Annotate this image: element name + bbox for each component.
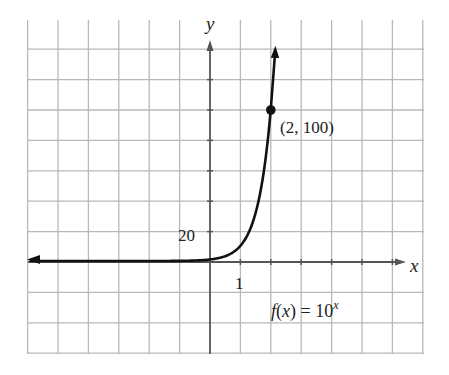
function-label-x: x (281, 301, 290, 321)
function-label-exponent: x (332, 298, 339, 312)
point-annotation-label: (2, 100) (280, 118, 334, 137)
grid-lines (28, 20, 424, 354)
y-axis-arrow-icon (207, 40, 214, 51)
curve-top-arrow-icon (271, 46, 279, 58)
y-tick-label-20: 20 (178, 226, 195, 245)
x-axis-arrow-icon (395, 259, 406, 266)
x-tick-label-1: 1 (235, 274, 244, 293)
x-axis-label: x (409, 255, 419, 276)
function-curve-path (31, 57, 275, 261)
axes (28, 40, 406, 354)
y-axis-label: y (204, 13, 215, 34)
function-label-rest: ) = 10 (290, 301, 333, 322)
point-marker-2-100 (266, 105, 276, 115)
exponential-function-graph: y x 20 1 (2, 100) f(x) = 10x (0, 0, 449, 375)
function-label: f(x) = 10x (271, 298, 339, 322)
